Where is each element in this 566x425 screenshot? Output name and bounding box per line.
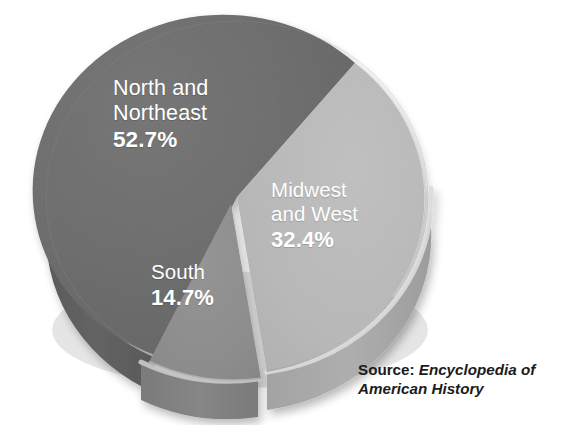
pie-chart-figure: North and Northeast 52.7% Midwest and We… [0, 0, 566, 425]
source-prefix: Source: [358, 361, 419, 378]
source-note: Source: Encyclopedia of American History [358, 360, 564, 399]
